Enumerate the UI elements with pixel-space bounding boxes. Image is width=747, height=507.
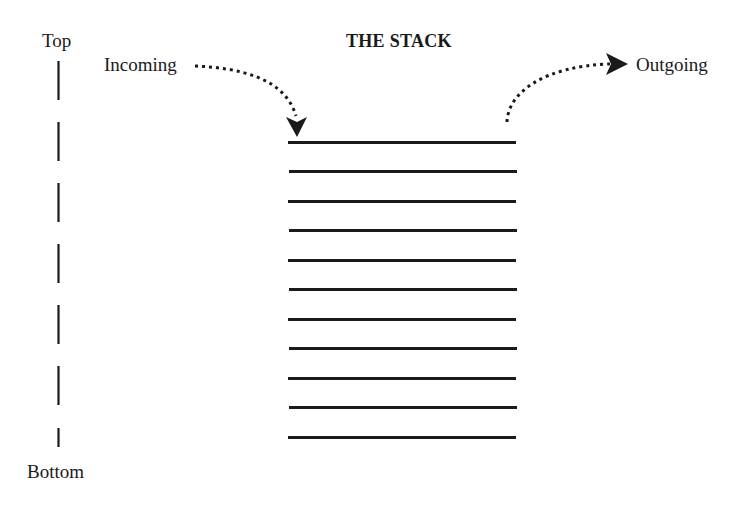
outgoing-arrow xyxy=(507,53,628,122)
arrowhead-down-icon xyxy=(286,117,307,137)
stack-items xyxy=(288,143,517,438)
incoming-arrow xyxy=(195,66,307,137)
